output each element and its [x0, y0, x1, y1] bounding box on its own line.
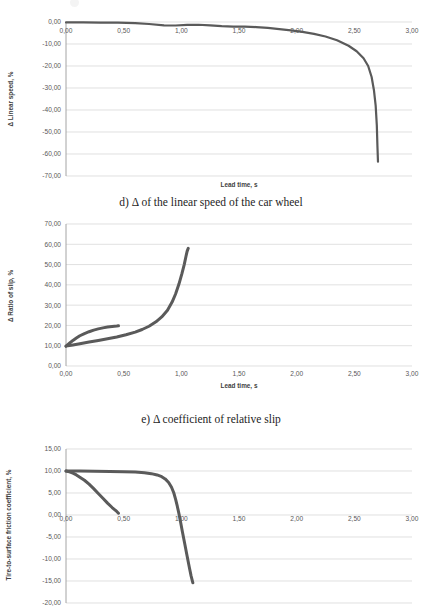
y-tick-label: 10,00: [44, 467, 61, 474]
y-tick-label: 40,00: [44, 281, 61, 288]
y-axis-title: Δ Linear speed, %: [7, 71, 15, 126]
x-tick-label: 3,00: [406, 515, 419, 522]
x-tick-label: 1,50: [233, 515, 246, 522]
data-series-line: [66, 326, 118, 346]
x-tick-label: 0,00: [60, 370, 73, 377]
x-tick-label: 2,00: [290, 515, 303, 522]
y-tick-label: -70,00: [42, 172, 61, 179]
y-tick-label: -30,00: [42, 84, 61, 91]
data-series-line: [66, 22, 378, 161]
y-tick-label: -10,00: [42, 555, 61, 562]
x-tick-label: 2,50: [348, 515, 361, 522]
y-tick-label: 30,00: [44, 302, 61, 309]
y-tick-label: -60,00: [42, 150, 61, 157]
x-tick-label: 1,00: [175, 370, 188, 377]
x-tick-label: 1,00: [175, 27, 188, 34]
figure-page: 0,00-10,00-20,00-30,00-40,00-50,00-60,00…: [0, 0, 422, 607]
data-series-line: [66, 471, 118, 513]
chart-tire-surface-friction: 15,0010,005,000,00-5,00-10,00-15,00-20,0…: [0, 437, 422, 607]
x-tick-label: 0,00: [60, 27, 73, 34]
x-tick-label: 1,50: [233, 370, 246, 377]
y-tick-label: 20,00: [44, 322, 61, 329]
y-axis-title: Tire-to-surface friction coefficient, %: [5, 469, 13, 580]
y-tick-label: -5,00: [46, 533, 61, 540]
x-tick-label: 0,50: [117, 515, 130, 522]
y-tick-label: 70,00: [44, 220, 61, 227]
chart-d-canvas: 0,00-10,00-20,00-30,00-40,00-50,00-60,00…: [0, 0, 422, 190]
chart-delta-relative-slip: 70,0060,0050,0040,0030,0020,0010,000,000…: [0, 218, 422, 393]
y-tick-label: -50,00: [42, 128, 61, 135]
x-tick-label: 2,00: [290, 370, 303, 377]
x-tick-label: 2,50: [348, 27, 361, 34]
x-tick-label: 0,50: [117, 27, 130, 34]
x-tick-label: 2,50: [348, 370, 361, 377]
figure-caption-e: e) Δ coefficient of relative slip: [0, 413, 422, 425]
chart-f-canvas: 15,0010,005,000,00-5,00-10,00-15,00-20,0…: [0, 437, 422, 607]
y-tick-label: 5,00: [48, 489, 61, 496]
y-tick-label: 10,00: [44, 342, 61, 349]
x-axis-title: Lead time, s: [221, 181, 258, 189]
x-axis-title: Lead time, s: [221, 382, 258, 390]
data-series-line: [66, 471, 193, 583]
figure-caption-d: d) Δ of the linear speed of the car whee…: [0, 196, 422, 208]
x-tick-label: 3,00: [406, 370, 419, 377]
y-tick-label: 0,00: [48, 18, 61, 25]
y-tick-label: -20,00: [42, 599, 61, 606]
chart-e-canvas: 70,0060,0050,0040,0030,0020,0010,000,000…: [0, 218, 422, 393]
y-tick-label: -10,00: [42, 40, 61, 47]
y-tick-label: 60,00: [44, 241, 61, 248]
y-tick-label: -40,00: [42, 106, 61, 113]
y-tick-label: 15,00: [44, 445, 61, 452]
x-tick-label: 0,50: [117, 370, 130, 377]
y-axis-title: Δ Ratio of slip, %: [7, 270, 15, 322]
data-series-line: [66, 248, 188, 346]
x-tick-label: 3,00: [406, 27, 419, 34]
x-tick-label: 1,50: [233, 27, 246, 34]
y-tick-label: -20,00: [42, 62, 61, 69]
y-tick-label: 0,00: [48, 362, 61, 369]
chart-delta-linear-speed: 0,00-10,00-20,00-30,00-40,00-50,00-60,00…: [0, 0, 422, 190]
x-tick-label: 0,00: [60, 515, 73, 522]
y-tick-label: -15,00: [42, 577, 61, 584]
y-tick-label: 50,00: [44, 261, 61, 268]
